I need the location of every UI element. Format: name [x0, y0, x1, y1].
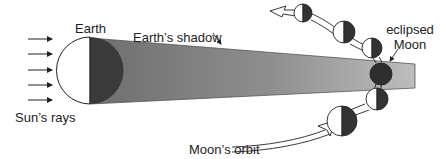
- lunar-eclipse-diagram: Earth Earth’s shadow eclipsed Moon Sun’s…: [0, 0, 441, 159]
- eclipsed-moon-label-line1: eclipsed: [382, 23, 438, 36]
- moon-phase-3: [362, 38, 382, 58]
- moon-phase-2: [333, 21, 355, 43]
- eclipsed-moon-icon: [370, 63, 392, 85]
- sun-rays-label: Sun’s rays: [15, 111, 75, 124]
- earth-shadow-label: Earth’s shadow: [133, 31, 222, 44]
- moon-orbit-label: Moon’s orbit: [189, 143, 260, 156]
- earth-label: Earth: [75, 22, 106, 35]
- sun-rays-arrows: [28, 39, 52, 100]
- diagram-canvas: [0, 0, 441, 159]
- moon-phase-5: [366, 88, 388, 110]
- moon-phase-6: [327, 106, 357, 136]
- moon-phase-1: [294, 4, 312, 22]
- earth-icon: [56, 37, 123, 104]
- eclipsed-moon-label-line2: Moon: [382, 38, 438, 51]
